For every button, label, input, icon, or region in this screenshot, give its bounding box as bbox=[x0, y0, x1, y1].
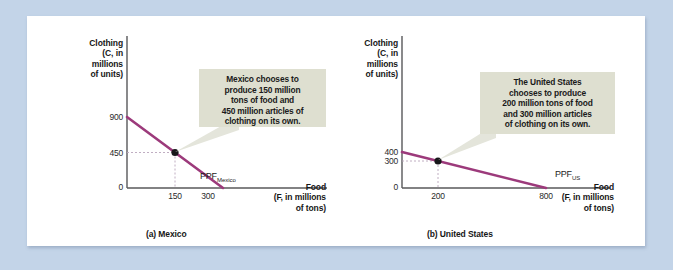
y-tick-label-900: 900 bbox=[85, 112, 123, 122]
figure-card: Mexico chooses to produce 150 million to… bbox=[27, 16, 645, 246]
callout-mexico: Mexico chooses to produce 150 million to… bbox=[199, 69, 326, 127]
panel-caption-united-states: (b) United States bbox=[427, 229, 493, 239]
callout-united-states: The United States chooses to produce 200… bbox=[480, 72, 615, 134]
x-tick-label-150: 150 bbox=[158, 191, 192, 201]
curve-label-ppf-us: PPFUS bbox=[555, 169, 580, 181]
curve-label-subscript: US bbox=[572, 175, 580, 181]
curve-label-base: PPF bbox=[200, 171, 217, 181]
y-axis-title-mexico: Clothing (C, in millions of units) bbox=[53, 38, 123, 80]
x-axis-title-united-states: Food (F, in millions of tons) bbox=[520, 182, 614, 213]
x-axis-title-mexico: Food (F, in millions of tons) bbox=[232, 182, 326, 213]
x-tick-label-300: 300 bbox=[191, 191, 225, 201]
y-tick-label-0: 0 bbox=[85, 182, 123, 192]
y-tick-label-450: 450 bbox=[85, 148, 123, 158]
x-tick-label-200: 200 bbox=[421, 191, 455, 201]
chart-panel-mexico: Mexico chooses to produce 150 million to… bbox=[27, 16, 336, 246]
y-tick-label-300: 300 bbox=[360, 156, 398, 166]
y-tick-label-0: 0 bbox=[360, 182, 398, 192]
curve-label-ppf-mexico: PPFMexico bbox=[200, 171, 236, 183]
chart-panel-united-states: The United States chooses to produce 200… bbox=[327, 16, 636, 246]
y-axis-title-united-states: Clothing (C, in millions of units) bbox=[328, 38, 398, 80]
curve-label-base: PPF bbox=[555, 169, 572, 179]
panel-caption-mexico: (a) Mexico bbox=[146, 229, 187, 239]
